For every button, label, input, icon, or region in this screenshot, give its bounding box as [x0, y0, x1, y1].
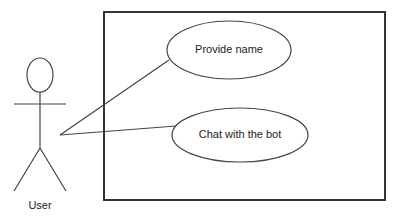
actor-label: User — [28, 200, 51, 211]
use-case-label-chat-with-bot: Chat with the bot — [199, 129, 282, 140]
association-provide-name — [60, 60, 169, 135]
association-chat-with-bot — [60, 126, 176, 135]
actor-head — [27, 58, 53, 92]
use-case-diagram — [0, 0, 396, 218]
actor-left-leg — [14, 148, 40, 191]
actor-user — [14, 58, 66, 191]
actor-right-leg — [40, 148, 66, 191]
use-case-label-provide-name: Provide name — [195, 44, 263, 55]
